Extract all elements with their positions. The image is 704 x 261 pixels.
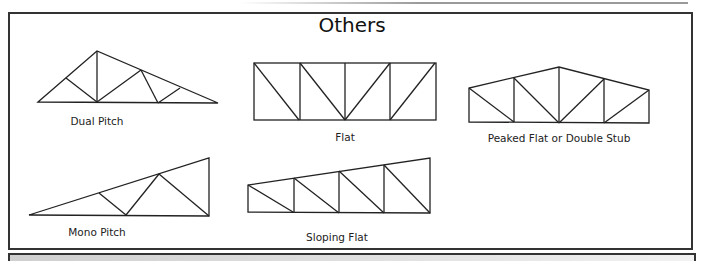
peaked-flat-label: Peaked Flat or Double Stub xyxy=(488,132,631,144)
dual-pitch-label: Dual Pitch xyxy=(71,115,124,127)
mono-pitch-label: Mono Pitch xyxy=(68,226,125,238)
bottom-panel-bar xyxy=(8,253,696,261)
peaked-flat-truss xyxy=(469,67,649,123)
dual-pitch-truss xyxy=(38,51,218,103)
sloping-flat-label: Sloping Flat xyxy=(306,231,368,243)
sloping-flat-truss xyxy=(248,158,430,213)
flat-label: Flat xyxy=(335,131,355,143)
flat-truss xyxy=(254,63,436,120)
mono-pitch-truss xyxy=(29,158,209,216)
